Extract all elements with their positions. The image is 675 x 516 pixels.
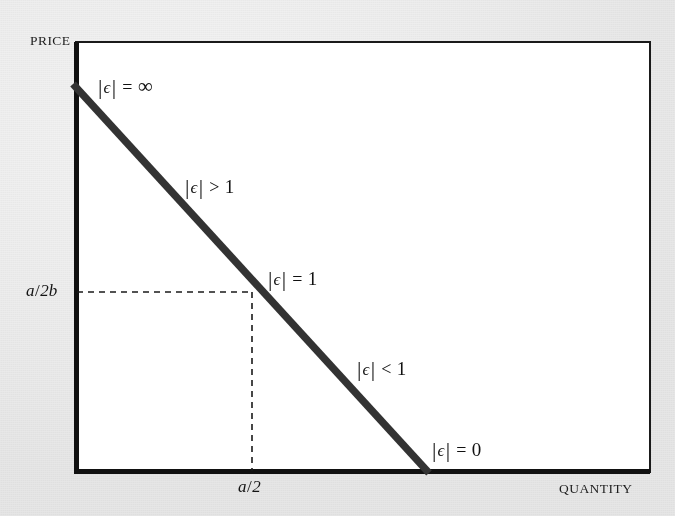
abs-bar-left: | bbox=[98, 74, 103, 99]
y-tick-denominator: 2b bbox=[40, 281, 57, 300]
abs-bar-right: | bbox=[112, 74, 117, 99]
annotation-elasticity-infinite: |ϵ|=∞ bbox=[98, 73, 153, 99]
abs-bar-left: | bbox=[432, 437, 437, 462]
elasticity-value: ∞ bbox=[138, 74, 153, 98]
elasticity-value: 1 bbox=[397, 358, 407, 379]
abs-bar-right: | bbox=[282, 266, 287, 291]
abs-bar-right: | bbox=[199, 174, 204, 199]
abs-bar-left: | bbox=[268, 266, 273, 291]
y-tick-numerator: a bbox=[26, 281, 35, 300]
epsilon-symbol: ϵ bbox=[190, 178, 199, 197]
relation-operator: = bbox=[286, 269, 307, 289]
relation-operator: < bbox=[375, 359, 396, 379]
annotation-elasticity-inelastic: |ϵ|<1 bbox=[357, 355, 406, 381]
elasticity-demand-curve-figure: PRICE QUANTITY a/2b a/2 |ϵ|=∞ |ϵ|>1 |ϵ|=… bbox=[0, 0, 675, 516]
x-axis-tick-label: a/2 bbox=[238, 477, 261, 497]
epsilon-symbol: ϵ bbox=[362, 360, 371, 379]
epsilon-symbol: ϵ bbox=[437, 441, 446, 460]
plot-background bbox=[75, 42, 650, 473]
abs-bar-left: | bbox=[357, 356, 362, 381]
annotation-elasticity-elastic: |ϵ|>1 bbox=[185, 173, 234, 199]
relation-operator: = bbox=[116, 77, 137, 97]
elasticity-value: 1 bbox=[225, 176, 235, 197]
abs-bar-right: | bbox=[446, 437, 451, 462]
relation-operator: > bbox=[203, 177, 224, 197]
elasticity-value: 1 bbox=[308, 268, 318, 289]
x-axis-title: QUANTITY bbox=[559, 481, 632, 497]
relation-operator: = bbox=[450, 440, 471, 460]
elasticity-value: 0 bbox=[472, 439, 482, 460]
annotation-elasticity-unit: |ϵ|=1 bbox=[268, 265, 317, 291]
epsilon-symbol: ϵ bbox=[103, 78, 112, 97]
abs-bar-right: | bbox=[371, 356, 376, 381]
y-axis-title: PRICE bbox=[30, 33, 71, 49]
epsilon-symbol: ϵ bbox=[273, 270, 282, 289]
annotation-elasticity-zero: |ϵ|=0 bbox=[432, 436, 481, 462]
y-axis-tick-label: a/2b bbox=[26, 281, 57, 301]
abs-bar-left: | bbox=[185, 174, 190, 199]
x-tick-numerator: a bbox=[238, 477, 247, 496]
x-tick-denominator: 2 bbox=[252, 477, 261, 496]
